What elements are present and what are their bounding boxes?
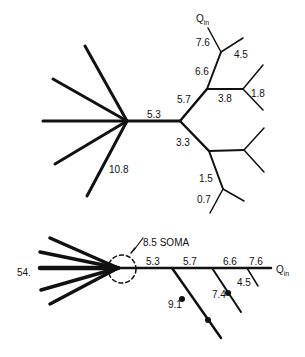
- diameter-label: 7.4: [212, 289, 226, 300]
- diameter-label: 7.6: [196, 37, 210, 48]
- soma-label: 8.5 SOMA: [143, 237, 189, 248]
- diameter-label: 0.7: [197, 194, 211, 205]
- top-tree-labels: Qin 7.6 4.5 6.6 5.7 3.8 1.8 5.3 3.3 1.5 …: [109, 13, 265, 205]
- dendrite-diagram: Qin 7.6 4.5 6.6 5.7 3.8 1.8 5.3 3.3 1.5 …: [0, 0, 305, 357]
- diameter-label: 1.8: [251, 88, 265, 99]
- diameter-label: 5.3: [147, 109, 161, 120]
- diameter-label: 7.6: [249, 256, 263, 267]
- diameter-label: 9.1: [168, 299, 182, 310]
- diameter-label: 4.5: [234, 49, 248, 60]
- diameter-label: 10.8: [109, 164, 129, 175]
- q-in-label: Qin: [276, 264, 289, 277]
- top-dendritic-tree: [43, 28, 264, 213]
- bottom-equivalent-cylinder: [40, 238, 271, 338]
- diameter-label: 5.3: [146, 256, 160, 267]
- diameter-label: 5.7: [183, 256, 197, 267]
- diameter-label: 5.7: [177, 94, 191, 105]
- diameter-label: 1.5: [199, 173, 213, 184]
- q-in-label: Qin: [196, 13, 209, 26]
- diameter-label: 4.5: [237, 277, 251, 288]
- diameter-label: 3.8: [218, 93, 232, 104]
- diameter-label: 6.6: [195, 66, 209, 77]
- diameter-label: 6.6: [223, 256, 237, 267]
- diameter-label: 54.: [17, 267, 31, 278]
- diameter-label: 3.3: [176, 137, 190, 148]
